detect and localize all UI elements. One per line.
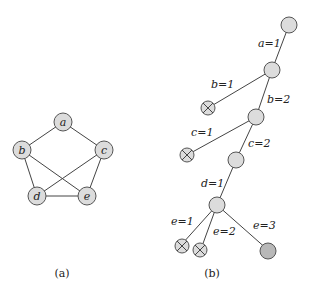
- node-d: d: [28, 187, 46, 205]
- edge-label-b1: b=1: [211, 78, 234, 91]
- node-a: a: [54, 113, 72, 131]
- edge-label-e2: e=2: [213, 225, 236, 238]
- node-d-label: d: [33, 190, 40, 203]
- node-b-label: b: [18, 144, 25, 157]
- panel-a-graph: a b c d e (a): [13, 113, 113, 280]
- edge-label-c1: c=1: [191, 126, 213, 139]
- caption-a: (a): [54, 267, 69, 280]
- tree-root-node: [281, 17, 297, 33]
- figure-canvas: a b c d e (a) a=1 b=1 b=2: [0, 0, 311, 296]
- node-e: e: [78, 187, 96, 205]
- edge-label-b2: b=2: [267, 93, 290, 106]
- pruned-node-e1-icon: [175, 239, 189, 253]
- tree-node-d1: [209, 197, 225, 213]
- node-a-label: a: [60, 116, 67, 129]
- tree-node-c2: [228, 152, 244, 168]
- node-b: b: [13, 141, 31, 159]
- caption-b: (b): [204, 267, 220, 280]
- tree-node-a1: [264, 62, 280, 78]
- pruned-node-e2-icon: [193, 243, 207, 257]
- tree-node-b2: [248, 109, 264, 125]
- edge-c-d: [37, 150, 104, 196]
- edge-label-e1: e=1: [171, 215, 194, 228]
- pruned-node-c1-icon: [180, 148, 194, 162]
- solution-leaf-node: [260, 243, 276, 259]
- node-c: c: [95, 141, 113, 159]
- node-e-label: e: [84, 190, 91, 203]
- edge-label-a1: a=1: [258, 37, 281, 50]
- edge-label-c2: c=2: [248, 137, 270, 150]
- pruned-node-b1-icon: [201, 101, 215, 115]
- edge-label-d1: d=1: [201, 177, 224, 190]
- edge-label-e3: e=3: [253, 219, 276, 232]
- panel-b-search-tree: a=1 b=1 b=2 c=1 c=2 d=1 e=1 e=2 e=3: [171, 17, 297, 280]
- node-c-label: c: [101, 144, 107, 157]
